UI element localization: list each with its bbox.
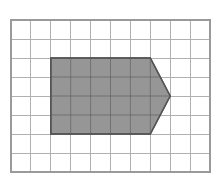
grid-figure: Shaded pentagon arrow on square grid [0,0,221,179]
figure-canvas: Shaded pentagon arrow on square grid [0,0,221,179]
